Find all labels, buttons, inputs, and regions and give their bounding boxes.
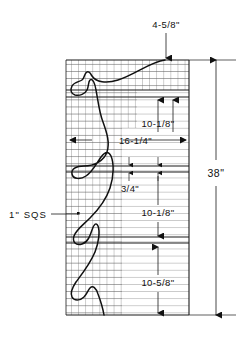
mesh-callout-label: 1" SQS [9, 209, 47, 220]
technical-drawing-root: 38" 4-5/8" 10-1/8" 16-1/4" 3/4" [0, 0, 250, 347]
extension-lines [189, 60, 236, 315]
top-offset-label: 4-5/8" [152, 19, 179, 30]
rail-thickness-label: 3/4" [121, 183, 139, 194]
overall-height-dimension: 38" [207, 60, 224, 315]
drawing-canvas: 38" 4-5/8" 10-1/8" 16-1/4" 3/4" [0, 0, 250, 347]
top-offset-dimension: 4-5/8" [152, 19, 179, 58]
overall-height-label: 38" [207, 167, 224, 179]
lower-rail-label: 10-5/8" [141, 277, 174, 288]
mesh-callout-dot [77, 212, 80, 215]
middle-rail-label: 10-1/8" [141, 207, 174, 218]
panel-width-label: 16-1/4" [119, 135, 152, 146]
upper-rail-label: 10-1/8" [141, 118, 174, 129]
